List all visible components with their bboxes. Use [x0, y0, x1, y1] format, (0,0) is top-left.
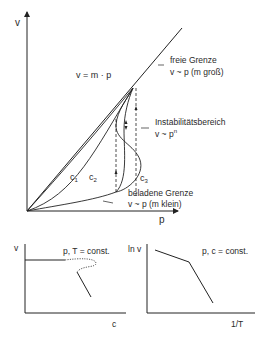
instability-relation: v ~ pn [155, 128, 177, 139]
br-arrhenius-line [155, 250, 213, 303]
main-y-label: v [15, 17, 20, 28]
arrow-inner-down [125, 126, 128, 130]
main-x-label: p [159, 214, 165, 225]
free-limit-relation: v ~ p (m groß) [170, 67, 224, 77]
curve-c3-label: c3 [140, 173, 149, 184]
curve-c1-label: c1 [70, 172, 79, 183]
bottom-right-diagram: ln v 1/T p, c = const. [128, 244, 255, 329]
equation-label: v = m · p [76, 70, 111, 80]
bottom-left-diagram: v c p, T = const. [14, 243, 126, 329]
arrow-up-right [135, 106, 138, 110]
curve-c2-label: c2 [89, 172, 98, 183]
loaded-limit-leader [103, 201, 113, 203]
loaded-limit-title: beladene Grenze [128, 188, 193, 198]
arrow-inner-up [125, 120, 128, 124]
br-y-label: ln v [128, 244, 142, 254]
bl-falling-line [77, 272, 91, 297]
arrow-up-left [115, 170, 118, 174]
bl-unstable-dotted [65, 259, 96, 272]
diagram-canvas: v p v = m · p freie Grenze v ~ p (m groß… [0, 0, 264, 339]
br-condition: p, c = const. [202, 246, 248, 256]
bl-y-label: v [14, 243, 19, 253]
instability-title: Instabilitätsbereich [155, 117, 226, 127]
loaded-limit-relation: v ~ p (m klein) [128, 199, 182, 209]
br-x-label: 1/T [231, 319, 243, 329]
bl-x-label: c [112, 319, 117, 329]
free-limit-title: freie Grenze [170, 55, 217, 65]
bl-condition: p, T = const. [63, 246, 110, 256]
main-diagram: v p v = m · p freie Grenze v ~ p (m groß… [15, 12, 226, 225]
